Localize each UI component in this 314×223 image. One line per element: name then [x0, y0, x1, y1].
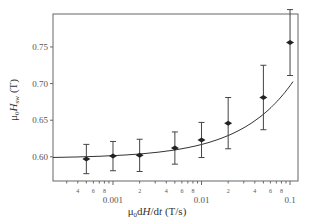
chart: 0.600.650.700.75 0.0010.010.146824682468… — [0, 0, 314, 223]
diamond-marker — [259, 95, 267, 100]
x-minor-tick-label: 6 — [180, 188, 183, 194]
x-minor-tick-label: 4 — [253, 188, 256, 194]
x-minor-tick-label: 6 — [92, 188, 95, 194]
x-minor-tick-label: 8 — [103, 188, 106, 194]
x-minor-tick-label: 8 — [280, 188, 283, 194]
data-point — [136, 139, 144, 171]
x-minor-tick-label: 8 — [191, 188, 194, 194]
y-tick-label: 0.65 — [32, 115, 48, 125]
x-minor-tick-label: 2 — [138, 188, 141, 194]
y-tick-label: 0.60 — [32, 152, 48, 162]
data-series — [82, 10, 294, 174]
data-point — [198, 122, 206, 157]
data-point — [259, 65, 267, 129]
x-minor-tick-label: 6 — [269, 188, 272, 194]
data-point — [171, 132, 179, 164]
y-tick-label: 0.75 — [32, 42, 48, 52]
data-point — [109, 141, 117, 170]
x-major-tick-label: 0.01 — [194, 195, 210, 205]
x-major-tick-label: 0.1 — [284, 195, 295, 205]
fit-curve — [53, 82, 293, 158]
diamond-marker — [286, 40, 294, 45]
diamond-marker — [109, 154, 117, 159]
data-point — [286, 10, 294, 76]
y-tick-label: 0.70 — [32, 79, 48, 89]
y-axis-title: μ0Hsw (T) — [7, 79, 21, 121]
data-point — [224, 98, 232, 149]
x-minor-tick-label: 4 — [76, 188, 79, 194]
x-major-tick-label: 0.001 — [103, 195, 123, 205]
diamond-marker — [82, 157, 90, 162]
x-minor-tick-label: 2 — [227, 188, 230, 194]
diamond-marker — [198, 137, 206, 142]
x-minor-tick-label: 4 — [165, 188, 168, 194]
y-axis: 0.600.650.700.75 — [32, 42, 53, 162]
x-axis: 0.0010.010.146824682468 — [67, 181, 296, 205]
diamond-marker — [224, 121, 232, 126]
data-point — [82, 144, 90, 173]
x-axis-title: μ0dH/dt (T/s) — [128, 205, 187, 219]
